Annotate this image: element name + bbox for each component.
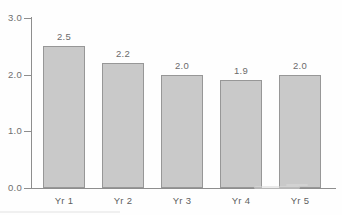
x-axis-tick-label: Yr 2 — [98, 196, 148, 206]
bar-value-label: 2.5 — [44, 32, 84, 42]
x-axis-tick-label: Yr 4 — [216, 196, 266, 206]
bar — [161, 75, 203, 188]
bar-value-label: 2.0 — [280, 61, 320, 71]
bar-value-label: 2.0 — [162, 61, 202, 71]
x-axis-tick-label: Yr 5 — [275, 196, 325, 206]
bar — [43, 46, 85, 188]
x-axis-tick-label: Yr 1 — [39, 196, 89, 206]
x-axis-tick-label: Yr 3 — [157, 196, 207, 206]
y-axis-tick — [24, 75, 31, 76]
bar-value-label: 1.9 — [221, 66, 261, 76]
y-axis-tick — [24, 131, 31, 132]
y-axis-tick — [24, 18, 31, 19]
y-axis-tick-label: 2.0 — [0, 70, 22, 80]
y-axis-tick — [24, 188, 31, 189]
y-axis-tick-label: 1.0 — [0, 126, 22, 136]
bar-chart: 0.01.02.03.0 2.52.22.01.92.0 Yr 1Yr 2Yr … — [0, 0, 342, 215]
scan-artifact — [0, 211, 120, 213]
y-axis-tick-label: 0.0 — [0, 183, 22, 193]
y-axis-line — [31, 17, 32, 189]
bar-value-label: 2.2 — [103, 49, 143, 59]
bar — [279, 75, 321, 188]
x-axis-line — [31, 188, 336, 189]
bar — [220, 80, 262, 188]
y-axis-tick-label: 3.0 — [0, 13, 22, 23]
bar — [102, 63, 144, 188]
